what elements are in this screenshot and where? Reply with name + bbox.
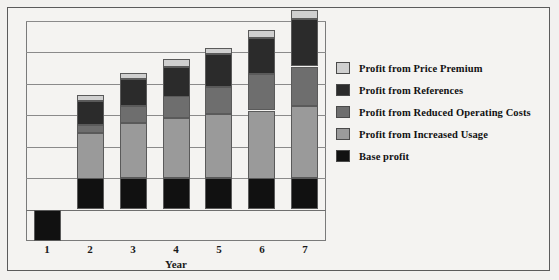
bar-segment[interactable] [248,74,275,110]
bar-segment[interactable] [205,48,232,54]
chart-legend: Profit from Price PremiumProfit from Ref… [336,57,544,167]
bar-segment[interactable] [291,19,318,66]
bar-column[interactable] [248,21,275,241]
bar-segment[interactable] [77,133,104,179]
legend-item-label: Profit from Increased Usage [359,129,488,140]
bar-segment[interactable] [291,10,318,19]
bar-segment[interactable] [205,87,232,114]
legend-item-label: Profit from Reduced Operating Costs [359,107,531,118]
bar-segment[interactable] [163,59,190,67]
legend-item[interactable]: Profit from Increased Usage [336,123,544,145]
bar-segment[interactable] [77,95,104,101]
x-tick-label: 7 [290,242,320,256]
x-tick-label: 1 [32,242,62,256]
bar-segment[interactable] [291,67,318,106]
x-tick-label: 5 [204,242,234,256]
legend-swatch-icon [336,128,350,140]
plot-area [26,21,326,241]
bar-column[interactable] [34,21,61,241]
bar-segment[interactable] [248,111,275,179]
bar-segment[interactable] [205,54,232,87]
legend-swatch-icon [336,84,350,96]
bar-segment[interactable] [120,123,147,178]
x-tick-label: 2 [75,242,105,256]
bar-column[interactable] [291,21,318,241]
bar-segment[interactable] [120,106,147,123]
bar-column[interactable] [77,21,104,241]
legend-item[interactable]: Profit from Reduced Operating Costs [336,101,544,123]
bar-segment[interactable] [163,96,190,118]
bar-segment[interactable] [248,178,275,209]
bar-segment[interactable] [77,125,104,133]
bar-segment[interactable] [163,118,190,178]
bar-segment[interactable] [163,178,190,209]
legend-swatch-icon [336,106,350,118]
bar-segment[interactable] [291,178,318,209]
bar-segment[interactable] [163,67,190,97]
bar-series-container [26,21,326,241]
x-tick-label: 3 [118,242,148,256]
bar-column[interactable] [205,21,232,241]
x-tick-label: 6 [247,242,277,256]
x-axis-ticks: 1234567 [26,242,326,258]
bar-segment[interactable] [205,178,232,209]
bar-segment[interactable] [205,114,232,178]
legend-item[interactable]: Base profit [336,145,544,167]
legend-item-label: Base profit [359,151,409,162]
bar-column[interactable] [163,21,190,241]
legend-item[interactable]: Profit from References [336,79,544,101]
bar-segment[interactable] [248,38,275,74]
x-tick-label: 4 [161,242,191,256]
legend-swatch-icon [336,62,350,74]
bar-segment[interactable] [77,178,104,209]
legend-item-label: Profit from Price Premium [359,63,483,74]
bar-column[interactable] [120,21,147,241]
bar-segment[interactable] [120,73,147,79]
legend-item[interactable]: Profit from Price Premium [336,57,544,79]
legend-swatch-icon [336,150,350,162]
bar-segment[interactable] [77,101,104,125]
bar-segment[interactable] [120,79,147,106]
bar-segment[interactable] [34,210,61,241]
bar-segment[interactable] [248,30,275,38]
bar-segment[interactable] [120,178,147,209]
chart-figure: 1234567 Year Profit from Price PremiumPr… [7,7,550,271]
bar-segment[interactable] [291,106,318,178]
legend-item-label: Profit from References [359,85,463,96]
x-axis-title: Year [26,258,326,270]
